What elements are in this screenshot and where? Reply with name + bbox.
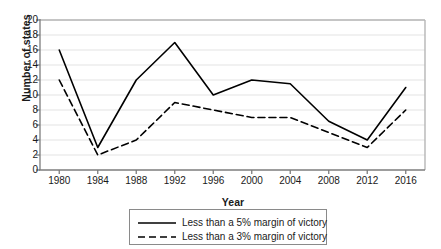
x-tick-label: 1992 [153,176,197,186]
legend-swatch-dashed-icon [137,231,177,243]
x-tick-label: 1984 [76,176,120,186]
y-tick-label: 12 [16,75,38,85]
x-tick-label: 2000 [230,176,274,186]
y-tick-label: 0 [16,165,38,175]
y-axis-tick-labels: 02468101214161820 [0,0,38,249]
y-tick-label: 14 [16,60,38,70]
line-chart: Number of states 02468101214161820 19801… [0,0,441,249]
legend-label: Less than a 3% margin of victory [182,231,327,243]
x-tick-label: 1980 [37,176,81,186]
y-tick-label: 6 [16,120,38,130]
x-tick-label: 2016 [384,176,428,186]
y-tick-label: 2 [16,150,38,160]
series-line-2 [59,80,406,155]
x-axis-title: Year [40,196,426,208]
x-tick-label: 1996 [191,176,235,186]
y-tick-label: 8 [16,105,38,115]
y-tick-label: 20 [16,15,38,25]
x-tick-label: 2008 [307,176,351,186]
x-tick-label: 2004 [268,176,312,186]
y-tick-label: 10 [16,90,38,100]
x-tick-label: 1988 [114,176,158,186]
x-tick-label: 2012 [345,176,389,186]
chart-legend: Less than a 5% margin of victoryLess tha… [129,209,327,245]
legend-label: Less than a 5% margin of victory [182,217,327,229]
y-tick-label: 16 [16,45,38,55]
legend-swatch-solid-icon [137,217,177,229]
legend-item: Less than a 3% margin of victory [130,228,328,245]
y-tick-label: 18 [16,30,38,40]
y-tick-label: 4 [16,135,38,145]
